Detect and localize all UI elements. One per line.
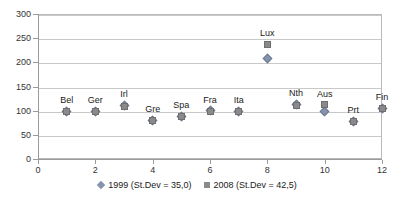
y-axis-line: [38, 14, 39, 159]
legend-entry: 2008 (St.Dev = 42,5): [204, 180, 297, 190]
data-point-label: Fin: [362, 93, 395, 102]
data-point-square: [379, 105, 386, 112]
x-axis-tick: [210, 160, 211, 164]
gridline: [39, 15, 381, 16]
chart-legend: 1999 (St.Dev = 35,0)2008 (St.Dev = 42,5): [0, 180, 395, 190]
data-point-square: [92, 108, 99, 115]
gridline: [39, 136, 381, 137]
y-axis-tick-label: 100: [3, 107, 31, 116]
scatter-chart: 050100150200250300 024681012 BelGerIrlGr…: [0, 0, 395, 203]
legend-label: 1999 (St.Dev = 35,0): [108, 180, 191, 190]
x-axis-tick: [325, 160, 326, 164]
y-axis-tick-label: 300: [3, 10, 31, 19]
y-axis-tick-label: 200: [3, 58, 31, 67]
data-point-square: [293, 102, 300, 109]
legend-swatch-square: [204, 182, 210, 188]
plot-area: [38, 14, 382, 159]
y-axis-tick-label: 50: [3, 131, 31, 140]
x-axis-tick-label: 4: [141, 166, 165, 175]
x-axis-tick: [382, 160, 383, 164]
data-point-label: Ita: [219, 96, 259, 105]
data-point-label: Aus: [305, 90, 345, 99]
y-axis-tick: [33, 87, 38, 88]
data-point-square: [264, 41, 271, 48]
data-point-square: [178, 113, 185, 120]
y-axis-tick: [33, 135, 38, 136]
gridline: [39, 39, 381, 40]
x-axis-tick-label: 2: [83, 166, 107, 175]
y-axis-tick: [33, 111, 38, 112]
x-axis-tick: [95, 160, 96, 164]
y-axis-tick-label: 0: [3, 155, 31, 164]
data-point-square: [207, 108, 214, 115]
legend-entry: 1999 (St.Dev = 35,0): [98, 180, 191, 190]
data-point-square: [235, 108, 242, 115]
data-point-square: [350, 118, 357, 125]
y-axis-tick: [33, 62, 38, 63]
x-axis-tick-label: 12: [370, 166, 394, 175]
y-axis-tick-label: 250: [3, 34, 31, 43]
data-point-label: Irl: [104, 90, 144, 99]
x-axis-tick: [267, 160, 268, 164]
y-axis-tick: [33, 14, 38, 15]
x-axis-tick-label: 10: [313, 166, 337, 175]
data-point-square: [121, 103, 128, 110]
gridline: [39, 63, 381, 64]
data-point-square: [63, 108, 70, 115]
x-axis-tick-label: 0: [26, 166, 50, 175]
x-axis-tick-label: 6: [198, 166, 222, 175]
data-point-square: [149, 117, 156, 124]
x-axis-tick: [153, 160, 154, 164]
legend-swatch-diamond: [97, 181, 105, 189]
data-point-label: Lux: [247, 29, 287, 38]
legend-label: 2008 (St.Dev = 42,5): [214, 180, 297, 190]
x-axis-tick-label: 8: [255, 166, 279, 175]
x-axis-tick: [38, 160, 39, 164]
data-point-square: [321, 101, 328, 108]
data-point-label: Prt: [333, 106, 373, 115]
y-axis-tick-label: 150: [3, 83, 31, 92]
y-axis-tick: [33, 38, 38, 39]
